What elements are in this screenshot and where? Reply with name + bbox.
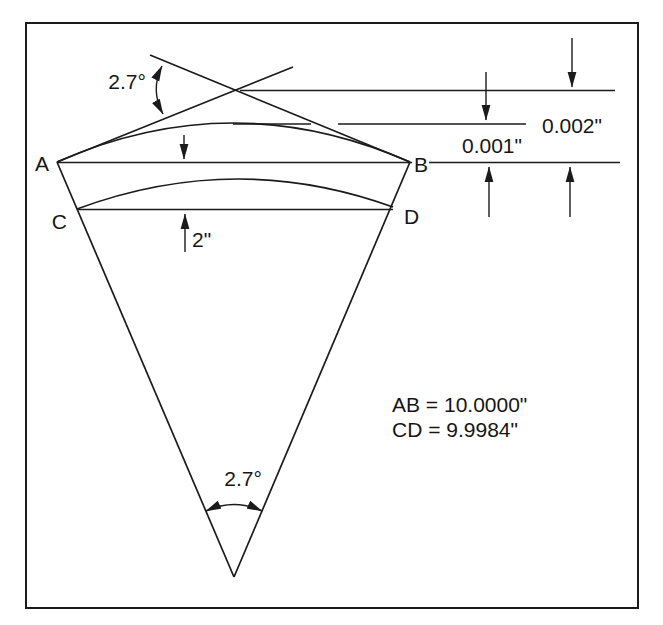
point-label-b: B	[414, 153, 428, 176]
dim-label-0002: 0.002"	[542, 114, 602, 137]
angle-label-top: 2.7°	[108, 70, 146, 93]
dim-label-0001: 0.001"	[462, 134, 522, 157]
equation-ab: AB = 10.0000"	[392, 393, 527, 416]
figure-border	[26, 23, 638, 608]
taper-cone-diagram: A B C D 2.7° 2.7° 0.002" 0.001" 2" AB = …	[0, 0, 663, 625]
point-label-d: D	[404, 205, 419, 228]
diagram-canvas: A B C D 2.7° 2.7° 0.002" 0.001" 2" AB = …	[0, 0, 663, 625]
dim-label-2in: 2"	[192, 228, 211, 251]
point-label-a: A	[35, 152, 49, 175]
angle-label-bottom: 2.7°	[224, 467, 262, 490]
point-label-c: C	[52, 210, 67, 233]
equation-cd: CD = 9.9984"	[392, 418, 518, 441]
